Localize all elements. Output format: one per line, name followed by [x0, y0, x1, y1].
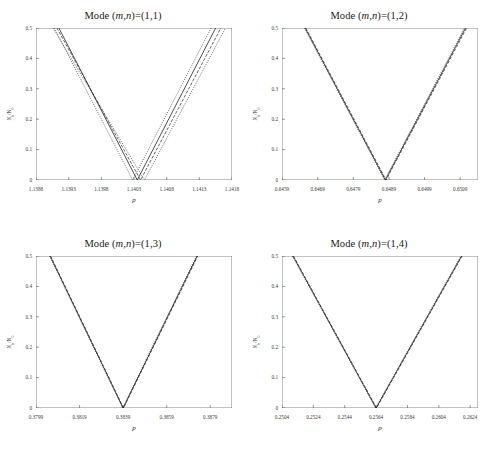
- x-axis-label-1: p: [36, 196, 232, 204]
- plot-svg: [282, 256, 478, 408]
- plot-area-2: [282, 28, 478, 180]
- y-tick-label: 0.3: [2, 314, 32, 320]
- x-axis-label-4: p: [282, 424, 478, 432]
- y-tick-label: 0.2: [248, 116, 278, 122]
- y-tick-label: 0.2: [2, 116, 32, 122]
- y-tick-label: 0.3: [2, 86, 32, 92]
- data-series-curve: [304, 28, 464, 180]
- x-tick-label: 0.6469: [298, 186, 338, 192]
- plot-area-3: [36, 256, 232, 408]
- subplot-panel-1: Mode (m,n)=(1,1)Nb/N0p0.50.40.30.20.101.…: [0, 0, 246, 228]
- x-tick-label: 0.6459: [262, 186, 302, 192]
- x-tick-label: 0.6509: [440, 186, 480, 192]
- plot-area-4: [282, 256, 478, 408]
- x-tick-label: 0.2624: [450, 414, 490, 420]
- data-series-curve: [51, 256, 198, 408]
- y-tick-label: 0.4: [2, 283, 32, 289]
- data-series-curve: [305, 28, 465, 180]
- y-tick-label: 0.5: [248, 25, 278, 31]
- data-series-curve: [53, 28, 225, 180]
- y-tick-label: 0: [2, 177, 32, 183]
- x-tick-label: 0.3859: [147, 414, 187, 420]
- data-series-curve: [50, 256, 197, 408]
- data-series-curve: [306, 28, 467, 180]
- data-series-curve: [50, 256, 197, 408]
- data-series-curve: [59, 28, 216, 180]
- data-series-curve: [293, 256, 462, 408]
- x-tick-label: 0.6479: [333, 186, 373, 192]
- plot-area-1: [36, 28, 232, 180]
- y-tick-label: 0.1: [248, 146, 278, 152]
- y-tick-label: 0.5: [2, 25, 32, 31]
- data-series-curve: [54, 28, 211, 180]
- y-tick-label: 0.2: [2, 344, 32, 350]
- plot-svg: [282, 28, 478, 180]
- y-tick-label: 0.4: [248, 283, 278, 289]
- figure-canvas: Mode (m,n)=(1,1)Nb/N0p0.50.40.30.20.101.…: [0, 0, 492, 457]
- plot-svg: [36, 28, 232, 180]
- y-tick-label: 0.1: [2, 146, 32, 152]
- subplot-title-2: Mode (m,n)=(1,2): [246, 10, 492, 21]
- y-tick-label: 0: [2, 405, 32, 411]
- subplot-panel-3: Mode (m,n)=(1,3)Nb/N0p0.50.40.30.20.100.…: [0, 228, 246, 456]
- y-tick-label: 0.1: [2, 374, 32, 380]
- data-series-curve: [293, 256, 462, 408]
- data-series-curve: [57, 28, 221, 180]
- plot-svg: [36, 256, 232, 408]
- x-tick-label: 0.6489: [369, 186, 409, 192]
- subplot-title-4: Mode (m,n)=(1,4): [246, 238, 492, 249]
- x-tick-label: 0.3879: [190, 414, 230, 420]
- subplot-panel-2: Mode (m,n)=(1,2)Nb/N0p0.50.40.30.20.100.…: [246, 0, 492, 228]
- subplot-panel-4: Mode (m,n)=(1,4)Nb/N0p0.50.40.30.20.100.…: [246, 228, 492, 456]
- y-tick-label: 0.5: [2, 253, 32, 259]
- subplot-title-3: Mode (m,n)=(1,3): [0, 238, 246, 249]
- x-tick-label: 0.3819: [60, 414, 100, 420]
- y-tick-label: 0.3: [248, 86, 278, 92]
- y-tick-label: 0.2: [248, 344, 278, 350]
- x-tick-label: 0.3839: [103, 414, 143, 420]
- x-axis-label-2: p: [282, 196, 478, 204]
- y-tick-label: 0.1: [248, 374, 278, 380]
- y-tick-label: 0.4: [2, 55, 32, 61]
- y-tick-label: 0.4: [248, 55, 278, 61]
- data-series-curve: [292, 256, 461, 408]
- x-tick-label: 0.6499: [405, 186, 445, 192]
- y-tick-label: 0.5: [248, 253, 278, 259]
- y-tick-label: 0: [248, 405, 278, 411]
- y-tick-label: 0.3: [248, 314, 278, 320]
- y-tick-label: 0: [248, 177, 278, 183]
- x-axis-label-3: p: [36, 424, 232, 432]
- x-tick-label: 0.3799: [16, 414, 56, 420]
- subplot-title-1: Mode (m,n)=(1,1): [0, 10, 246, 21]
